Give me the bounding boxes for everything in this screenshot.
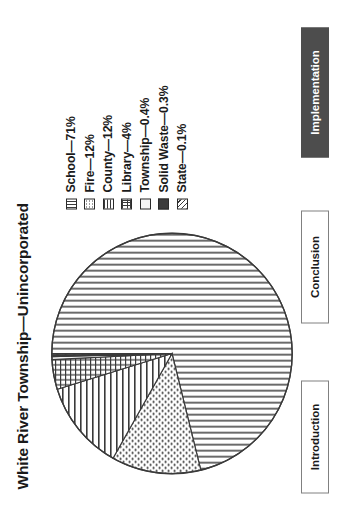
grid-swatch-icon (121, 198, 132, 209)
nav-button-implementation[interactable]: Implementation (301, 27, 329, 157)
legend-item-label: Library—4% (120, 122, 134, 192)
vertical-lines-swatch-icon (66, 198, 77, 209)
horizontal-lines-swatch-icon (103, 198, 114, 209)
legend-item: Solid Waste—0.3% (155, 59, 174, 209)
legend-item-label: Solid Waste—0.3% (157, 85, 171, 192)
legend-item: State—0.1% (173, 59, 192, 209)
solid-fill-swatch-icon (158, 198, 169, 209)
pie-chart (50, 231, 294, 475)
legend-item-label: School—71% (64, 116, 78, 192)
pie-chart-area (42, 207, 300, 497)
legend-item-label: Fire—12% (83, 134, 97, 192)
slide-navigation-bar: Introduction Conclusion Implementation (296, 0, 344, 505)
nav-button-conclusion[interactable]: Conclusion (301, 210, 329, 323)
chart-legend: School—71% Fire—12% County—12% Library—4… (62, 59, 192, 209)
dotted-swatch-icon (84, 198, 95, 209)
legend-item-label: State—0.1% (175, 123, 189, 192)
legend-item: School—71% (62, 59, 81, 209)
page-title: White River Township—Unincorporated (14, 203, 32, 489)
legend-item: Township—0.4% (136, 59, 155, 209)
diagonal-lines-swatch-icon (177, 198, 188, 209)
pie-slice-group (52, 233, 292, 473)
legend-item-label: County—12% (101, 114, 115, 192)
nav-button-introduction[interactable]: Introduction (301, 380, 329, 493)
pie-slice (52, 353, 172, 354)
pie-chart-svg (50, 231, 294, 475)
legend-item-label: Township—0.4% (138, 97, 152, 192)
legend-item: County—12% (99, 59, 118, 209)
empty-swatch-icon (140, 198, 151, 209)
legend-item: Fire—12% (81, 59, 100, 209)
slide-canvas: White River Township—Unincorporated (0, 0, 344, 505)
legend-item: Library—4% (118, 59, 137, 209)
